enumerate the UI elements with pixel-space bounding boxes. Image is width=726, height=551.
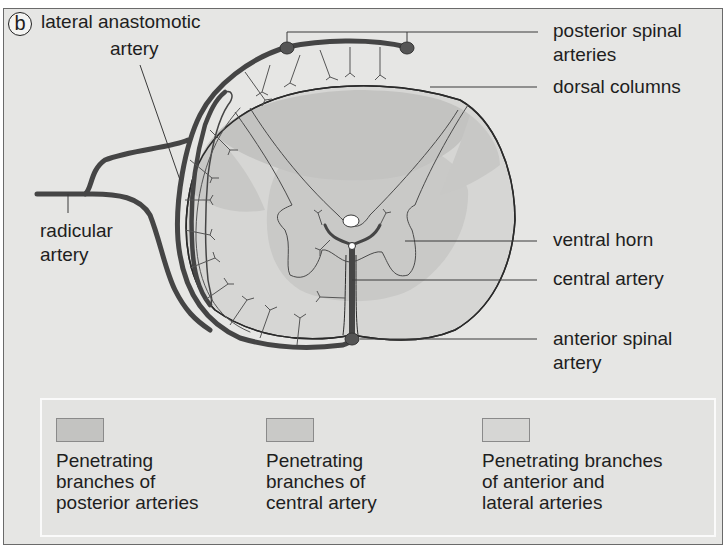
legend-swatch-posterior <box>56 418 104 442</box>
legend-text-central: Penetrating branches of central artery <box>266 450 377 513</box>
label-lateral-anastomotic-line2: artery <box>110 38 159 59</box>
legend: Penetrating branches of posterior arteri… <box>40 398 716 537</box>
legend-swatch-anterior-lateral <box>482 418 530 442</box>
legend-item-anterior-lateral: Penetrating branches of anterior and lat… <box>482 418 663 513</box>
legend-text-posterior: Penetrating branches of posterior arteri… <box>56 450 199 513</box>
label-lateral-anastomotic-line1: lateral anastomotic <box>41 11 200 32</box>
legend-item-central: Penetrating branches of central artery <box>266 418 377 513</box>
label-anterior-spinal-line1: anterior spinal <box>553 328 672 349</box>
anterior-spinal-artery <box>345 333 359 345</box>
label-posterior-spinal-line2: arteries <box>553 44 616 65</box>
panel-label: b <box>8 12 32 36</box>
posterior-spinal-artery-left <box>280 42 294 54</box>
label-posterior-spinal-line1: posterior spinal <box>553 20 682 41</box>
label-radicular-line2: artery <box>40 244 89 265</box>
legend-item-posterior: Penetrating branches of posterior arteri… <box>56 418 199 513</box>
label-radicular-line1: radicular <box>40 220 113 241</box>
label-anterior-spinal-line2: artery <box>553 352 602 373</box>
legend-text-anterior-lateral: Penetrating branches of anterior and lat… <box>482 450 663 513</box>
label-ventral-horn: ventral horn <box>553 229 653 250</box>
label-dorsal-columns: dorsal columns <box>553 76 681 97</box>
central-canal <box>343 215 359 227</box>
label-central-artery: central artery <box>553 268 664 289</box>
posterior-spinal-artery-right <box>400 42 414 54</box>
legend-swatch-central <box>266 418 314 442</box>
